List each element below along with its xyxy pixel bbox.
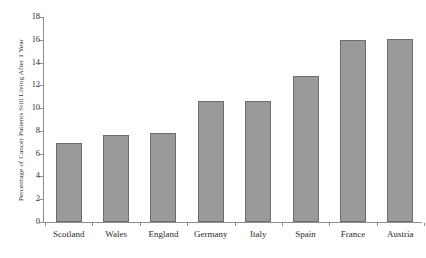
x-axis-category-label: England xyxy=(148,230,178,239)
y-axis-tick-label: 4 xyxy=(36,172,40,180)
x-axis-tick-mark xyxy=(187,223,188,226)
y-axis-tick-label: 14 xyxy=(32,58,40,66)
y-axis-tick-label: 16 xyxy=(32,36,40,44)
bar xyxy=(340,40,366,222)
x-axis-category-label: Scotland xyxy=(53,230,85,239)
y-axis-tick-label: 6 xyxy=(36,149,40,157)
x-axis-tick-mark xyxy=(140,223,141,226)
bar xyxy=(198,101,224,222)
x-axis-category-label: France xyxy=(341,230,366,239)
x-axis-category-label: Italy xyxy=(250,230,267,239)
bar xyxy=(150,133,176,222)
x-axis-category-label: Spain xyxy=(295,230,316,239)
x-axis-tick-mark xyxy=(45,223,46,226)
bar xyxy=(245,101,271,222)
bar-chart-figure: Percentage of Cancer Patients Still Livi… xyxy=(0,0,426,258)
y-axis-tick-label: 2 xyxy=(36,195,40,203)
y-axis-tick-label: 10 xyxy=(32,104,40,112)
x-axis-tick-mark xyxy=(282,223,283,226)
y-axis-tick-label: 8 xyxy=(36,127,40,135)
y-axis-tick-label: 0 xyxy=(36,218,40,226)
x-axis-category-label: Germany xyxy=(194,230,228,239)
x-axis-tick-mark xyxy=(329,223,330,226)
x-axis-tick-mark xyxy=(424,223,425,226)
bar xyxy=(293,76,319,222)
y-axis-line xyxy=(43,17,44,223)
plot-area: 024681012141618 ScotlandWalesEnglandGerm… xyxy=(43,17,422,223)
y-axis-tick-label: 18 xyxy=(32,13,40,21)
bar xyxy=(103,135,129,222)
x-axis-line xyxy=(43,222,422,223)
x-axis-tick-mark xyxy=(92,223,93,226)
x-axis-tick-mark xyxy=(235,223,236,226)
bar xyxy=(387,39,413,222)
y-axis-title: Percentage of Cancer Patients Still Livi… xyxy=(14,14,28,226)
x-axis-category-label: Wales xyxy=(105,230,127,239)
x-axis-category-label: Austria xyxy=(387,230,414,239)
x-axis-tick-mark xyxy=(377,223,378,226)
y-axis-tick-label: 12 xyxy=(32,81,40,89)
bar xyxy=(56,143,82,222)
